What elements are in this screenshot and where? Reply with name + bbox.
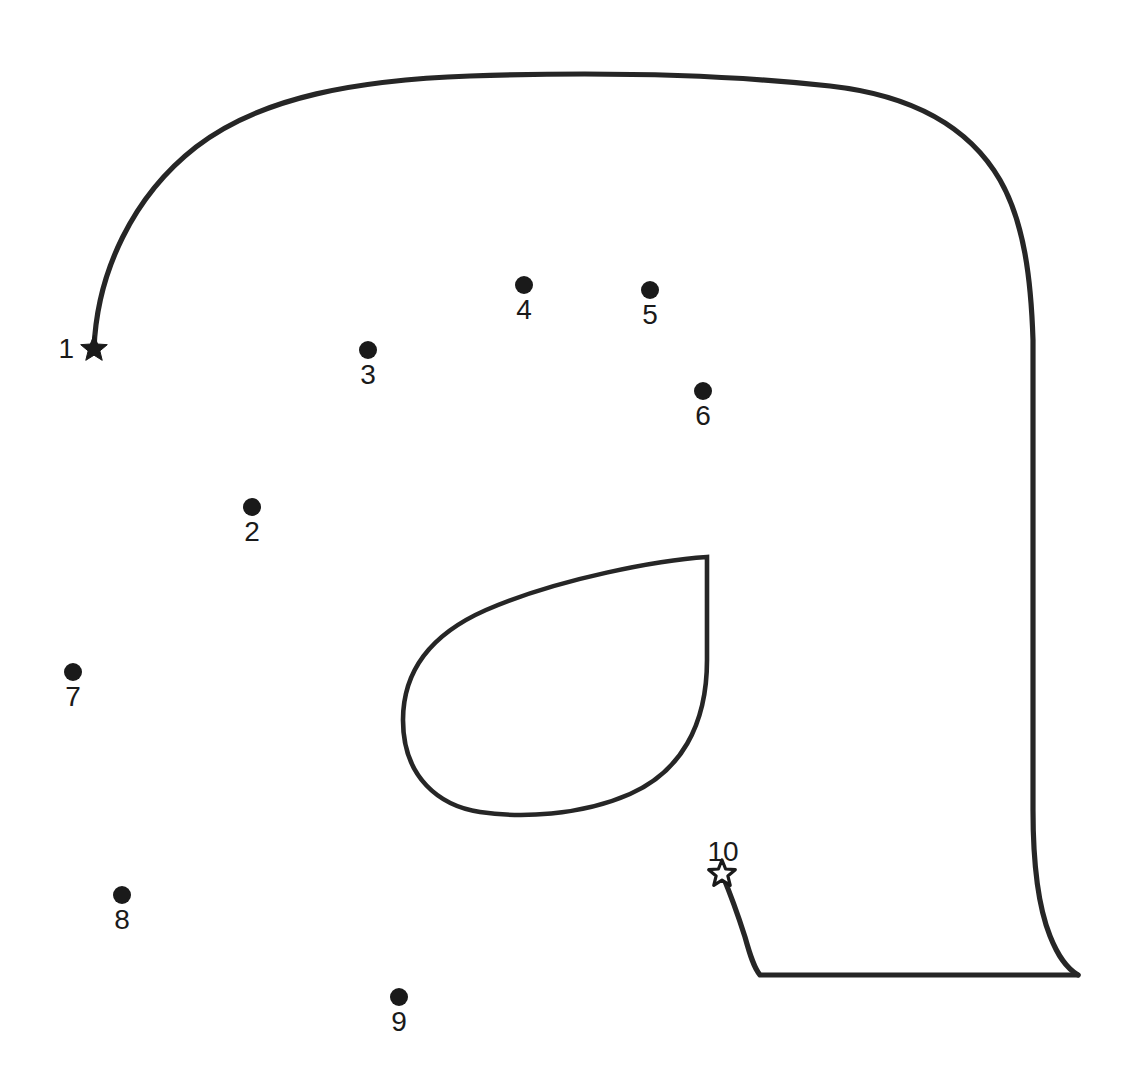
- dot-label-1: 1: [58, 333, 74, 364]
- start-star-icon[interactable]: [81, 335, 108, 360]
- dot-marker-9[interactable]: [390, 988, 408, 1006]
- dot-label-6: 6: [695, 400, 711, 431]
- puzzle-canvas: 12345678910: [0, 0, 1142, 1083]
- elephant-leg-outline: [722, 874, 1078, 975]
- dot-marker-7[interactable]: [64, 663, 82, 681]
- dot-marker-4[interactable]: [515, 276, 533, 294]
- dot-label-5: 5: [642, 299, 658, 330]
- elephant-ear-outline: [403, 557, 707, 815]
- dot-marker-6[interactable]: [694, 382, 712, 400]
- connect-the-dots-page: 12345678910: [0, 0, 1142, 1083]
- dot-marker-2[interactable]: [243, 498, 261, 516]
- dot-label-9: 9: [391, 1006, 407, 1037]
- dot-label-2: 2: [244, 516, 260, 547]
- dot-label-7: 7: [65, 681, 81, 712]
- dot-markers-layer: 12345678910: [58, 276, 738, 1037]
- elephant-body-outline: [94, 74, 1078, 975]
- dot-label-3: 3: [360, 359, 376, 390]
- dot-marker-5[interactable]: [641, 281, 659, 299]
- dot-marker-3[interactable]: [359, 341, 377, 359]
- dot-label-4: 4: [516, 294, 532, 325]
- dot-marker-8[interactable]: [113, 886, 131, 904]
- dot-label-8: 8: [114, 904, 130, 935]
- dot-label-10: 10: [707, 836, 738, 867]
